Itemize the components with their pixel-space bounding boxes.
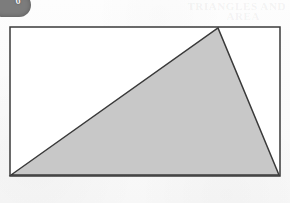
geometry-figure	[0, 0, 290, 203]
figure-page: 6 TRIANGLES AND AREA Shaded triangle ins…	[0, 0, 290, 203]
